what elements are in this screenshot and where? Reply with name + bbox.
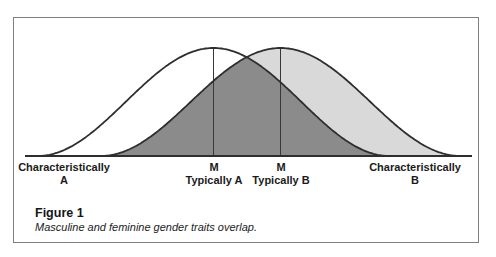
axis-label-line: Characteristically (18, 161, 110, 174)
axis-label-mean-typically-a: M Typically A (186, 161, 243, 186)
axis-label-line: M (186, 161, 243, 174)
axis-label-line: Characteristically (369, 161, 461, 174)
axis-label-line: B (369, 174, 461, 187)
axis-label-line: M (252, 161, 309, 174)
axis-label-line: A (18, 174, 110, 187)
axis-label-line: Typically A (186, 174, 243, 187)
axis-label-characteristically-a: Characteristically A (18, 161, 110, 186)
axis-label-mean-typically-b: M Typically B (252, 161, 309, 186)
axis-label-line: Typically B (252, 174, 309, 187)
figure-caption-title: Figure 1 (35, 206, 84, 220)
figure-caption-text: Masculine and feminine gender traits ove… (35, 221, 257, 233)
axis-label-characteristically-b: Characteristically B (369, 161, 461, 186)
